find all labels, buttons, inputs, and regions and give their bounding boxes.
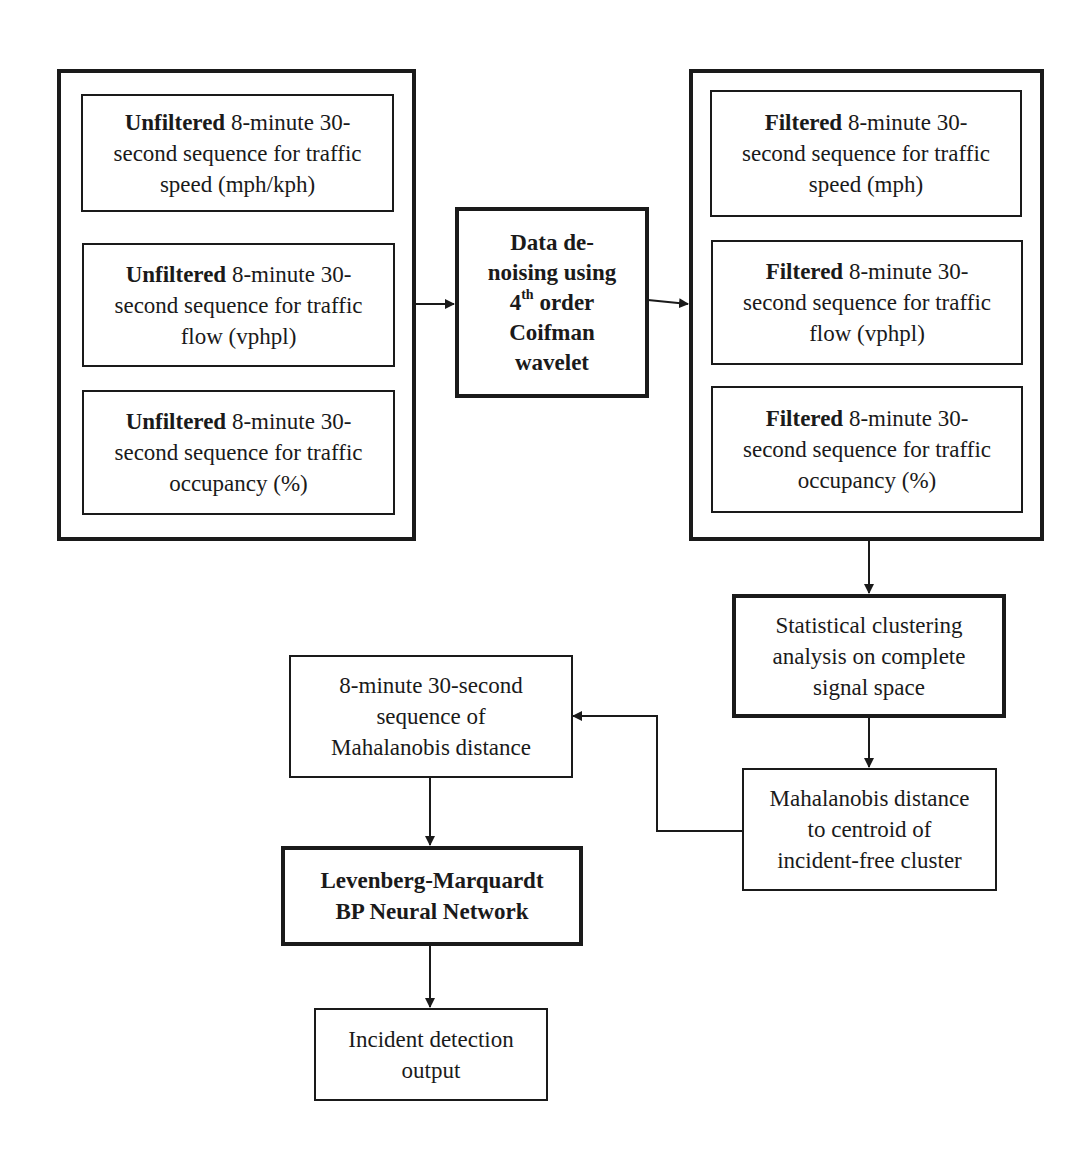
- superscript: th: [521, 287, 533, 302]
- filtered-label: Filtered: [766, 406, 844, 431]
- box-text: second sequence for traffic: [114, 141, 362, 166]
- box-text: Incident detection: [348, 1027, 513, 1052]
- unfiltered-speed-box: Unfiltered 8-minute 30- second sequence …: [81, 94, 394, 212]
- box-text: wavelet: [515, 350, 589, 375]
- box-text: occupancy (%): [798, 468, 937, 493]
- filtered-speed-box: Filtered 8-minute 30- second sequence fo…: [710, 90, 1022, 217]
- neural-network-box: Levenberg-Marquardt BP Neural Network: [281, 846, 583, 946]
- box-text: 8-minute 30-: [843, 259, 968, 284]
- box-text: 8-minute 30-: [226, 409, 351, 434]
- box-text: 8-minute 30-: [226, 262, 351, 287]
- box-text: second sequence for traffic: [742, 141, 990, 166]
- unfiltered-label: Unfiltered: [126, 409, 227, 434]
- filtered-label: Filtered: [765, 110, 843, 135]
- box-text: speed (mph/kph): [160, 172, 315, 197]
- box-text: Mahalanobis distance: [770, 786, 970, 811]
- box-text: second sequence for traffic: [115, 293, 363, 318]
- mahalanobis-centroid-box: Mahalanobis distance to centroid of inci…: [742, 768, 997, 891]
- box-text: noising using: [488, 260, 617, 285]
- box-text: Statistical clustering: [775, 613, 962, 638]
- box-text: 4: [510, 290, 522, 315]
- box-text: occupancy (%): [169, 471, 308, 496]
- box-text: Coifman: [509, 320, 595, 345]
- box-text: flow (vphpl): [181, 324, 297, 349]
- box-text: sequence of: [376, 704, 485, 729]
- clustering-box: Statistical clustering analysis on compl…: [732, 594, 1006, 718]
- arrow-centroid-to-sequence: [573, 716, 742, 831]
- box-text: flow (vphpl): [809, 321, 925, 346]
- box-text: second sequence for traffic: [743, 290, 991, 315]
- box-text: signal space: [813, 675, 925, 700]
- box-text: 8-minute 30-second: [339, 673, 522, 698]
- box-text: output: [402, 1058, 461, 1083]
- box-text: speed (mph): [809, 172, 923, 197]
- mahalanobis-sequence-box: 8-minute 30-second sequence of Mahalanob…: [289, 655, 573, 778]
- unfiltered-label: Unfiltered: [126, 262, 227, 287]
- box-text: order: [534, 290, 595, 315]
- filtered-occupancy-box: Filtered 8-minute 30- second sequence fo…: [711, 386, 1023, 513]
- filtered-label: Filtered: [766, 259, 844, 284]
- box-text: Levenberg-Marquardt: [320, 868, 543, 893]
- box-text: second sequence for traffic: [743, 437, 991, 462]
- unfiltered-flow-box: Unfiltered 8-minute 30- second sequence …: [82, 243, 395, 367]
- box-text: Data de-: [510, 230, 594, 255]
- arrow-denoising-to-filtered: [648, 300, 688, 304]
- box-text: BP Neural Network: [336, 899, 529, 924]
- unfiltered-occupancy-box: Unfiltered 8-minute 30- second sequence …: [82, 390, 395, 515]
- unfiltered-label: Unfiltered: [125, 110, 226, 135]
- box-text: 8-minute 30-: [842, 110, 967, 135]
- output-box: Incident detection output: [314, 1008, 548, 1101]
- box-text: Mahalanobis distance: [331, 735, 531, 760]
- box-text: 8-minute 30-: [225, 110, 350, 135]
- box-text: 8-minute 30-: [843, 406, 968, 431]
- box-text: to centroid of: [808, 817, 932, 842]
- box-text: incident-free cluster: [777, 848, 962, 873]
- filtered-flow-box: Filtered 8-minute 30- second sequence fo…: [711, 240, 1023, 365]
- denoising-box: Data de- noising using 4th order Coifman…: [455, 207, 649, 398]
- box-text: analysis on complete: [773, 644, 966, 669]
- box-text: second sequence for traffic: [115, 440, 363, 465]
